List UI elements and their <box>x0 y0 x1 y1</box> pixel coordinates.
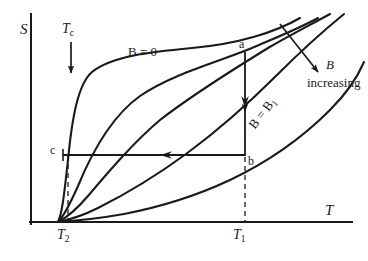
tc-subscript: c <box>70 28 74 38</box>
curve-label-b-zero: B = 0 <box>128 45 157 58</box>
figure-container: S T Tc T2 T1 B = 0 B = B1 B increasing a… <box>0 0 368 261</box>
entropy-curves <box>58 14 364 222</box>
b-increasing-label-line2: increasing <box>307 76 360 89</box>
axis-lines <box>30 14 352 224</box>
entropy-temperature-diagram <box>0 0 368 261</box>
b-increasing-label-line1: B <box>326 58 334 71</box>
curve-b-3 <box>58 14 330 222</box>
point-label-b: b <box>248 155 254 167</box>
tick-label-T2: T2 <box>57 228 70 244</box>
t2-subscript: 2 <box>65 234 70 244</box>
tc-label: Tc <box>62 22 74 38</box>
tc-letter: T <box>62 21 70 36</box>
point-label-c: c <box>50 144 55 156</box>
tick-label-T1: T1 <box>233 228 246 244</box>
curve-b-1 <box>58 14 344 222</box>
y-axis-label: S <box>20 22 28 37</box>
t1-letter: T <box>233 227 241 242</box>
thermodynamic-process-path <box>63 52 249 161</box>
t1-subscript: 1 <box>241 234 246 244</box>
t2-letter: T <box>57 227 65 242</box>
point-label-a: a <box>239 38 244 50</box>
x-axis-label: T <box>325 203 333 218</box>
